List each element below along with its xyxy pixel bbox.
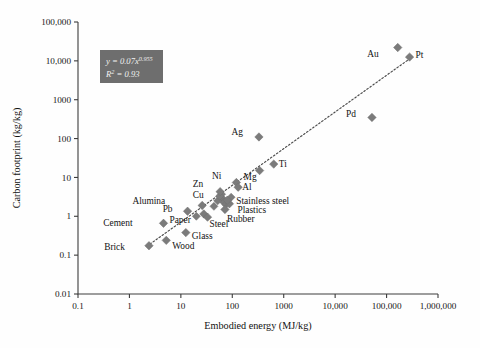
data-marker — [182, 228, 190, 236]
data-point-label: Paper — [169, 215, 191, 225]
data-marker — [162, 236, 170, 244]
data-point-label: Stainless steel — [236, 196, 289, 206]
x-tick-label: 1,000,000 — [420, 301, 457, 311]
data-point-label: Glass — [192, 231, 213, 241]
data-point-label: Ag — [231, 127, 243, 137]
data-marker — [368, 113, 376, 121]
y-tick-label: 100,000 — [41, 17, 71, 27]
data-point-label: Rubber — [227, 214, 255, 224]
y-tick-label: 10 — [62, 173, 72, 183]
data-point-label: Ni — [212, 171, 222, 181]
x-tick-label: 10 — [176, 301, 186, 311]
data-marker — [159, 219, 167, 227]
y-tick-label: 1 — [66, 211, 71, 221]
data-point-label: Cement — [103, 218, 133, 228]
x-tick-label: 1 — [127, 301, 132, 311]
y-tick-label: 10,000 — [46, 56, 72, 66]
data-point-label: Alumina — [132, 196, 166, 206]
y-tick-label: 0.1 — [60, 250, 72, 260]
data-point-label: Ti — [279, 159, 287, 169]
data-point-label: Al — [242, 182, 252, 192]
x-tick-label: 100,000 — [372, 301, 402, 311]
x-tick-label: 100 — [225, 301, 239, 311]
x-tick-label: 0.1 — [72, 301, 84, 311]
data-marker — [405, 53, 413, 61]
data-marker — [255, 133, 263, 141]
y-tick-label: 1000 — [53, 95, 72, 105]
data-point-label: Au — [367, 49, 379, 59]
data-point-label: Steel — [210, 219, 229, 229]
chart-figure: 0.010.1110100100010,000100,0000.11101001… — [0, 0, 480, 348]
data-point-label: Brick — [104, 242, 125, 252]
data-marker — [145, 241, 153, 249]
equation-annotation: y = 0.07x0.955R2 = 0.93 — [100, 50, 163, 83]
data-point-label: Wood — [172, 241, 194, 251]
x-tick-label: 10,000 — [323, 301, 349, 311]
data-point-label: Pd — [346, 109, 356, 119]
data-point-label: Mg — [244, 172, 257, 182]
y-tick-label: 100 — [57, 134, 71, 144]
data-point-label: Plastics — [237, 205, 266, 215]
data-point-label: Zn — [193, 179, 204, 189]
data-point-label: Cu — [193, 190, 204, 200]
data-point-label: Pt — [416, 50, 424, 60]
x-tick-label: 1000 — [275, 301, 294, 311]
r-squared-text: R2 = 0.93 — [105, 68, 139, 79]
x-axis-title: Embodied energy (MJ/kg) — [204, 320, 311, 332]
data-marker — [270, 160, 278, 168]
y-axis-title: Carbon footprint (kg/kg) — [11, 108, 23, 209]
data-marker — [394, 43, 402, 51]
y-tick-label: 0.01 — [55, 289, 71, 299]
scatter-plot: 0.010.1110100100010,000100,0000.11101001… — [0, 0, 480, 348]
